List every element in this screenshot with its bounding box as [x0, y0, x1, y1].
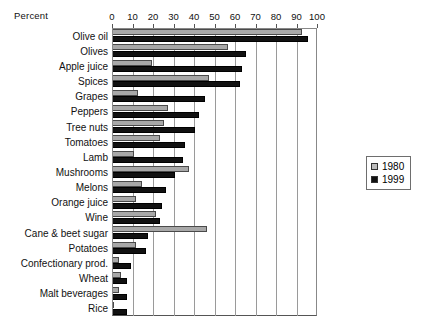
bar-1999 — [113, 51, 246, 57]
bar-row: Cane & beet sugar — [112, 225, 317, 240]
category-label: Olives — [80, 45, 108, 56]
category-label: Tree nuts — [66, 121, 108, 132]
x-tick-label: 40 — [189, 11, 200, 22]
bar-1999 — [113, 294, 127, 300]
x-tick-label: 0 — [109, 11, 114, 22]
bar-1999 — [113, 127, 195, 133]
bar-1999 — [113, 66, 242, 72]
bar-row: Wine — [112, 210, 317, 225]
x-tick-label: 10 — [127, 11, 138, 22]
bar-1980 — [113, 302, 114, 308]
bar-1980 — [113, 105, 168, 111]
category-label: Wine — [85, 212, 108, 223]
axis-title-percent: Percent — [14, 10, 48, 21]
bar-1980 — [113, 90, 138, 96]
bar-1980 — [113, 211, 156, 217]
legend-label: 1999 — [382, 173, 404, 186]
x-tick-label: 90 — [291, 11, 302, 22]
category-label: Peppers — [71, 106, 108, 117]
bar-1999 — [113, 142, 185, 148]
bar-row: Olive oil — [112, 28, 317, 43]
bar-row: Peppers — [112, 104, 317, 119]
legend-label: 1980 — [382, 160, 404, 173]
category-label: Spices — [78, 76, 108, 87]
x-tick-label: 50 — [209, 11, 220, 22]
bar-row: Tree nuts — [112, 119, 317, 134]
bar-row: Wheat — [112, 271, 317, 286]
bar-1980 — [113, 287, 119, 293]
legend-swatch-icon — [371, 176, 378, 183]
category-label: Cane & beet sugar — [25, 227, 108, 238]
bar-1980 — [113, 151, 134, 157]
bar-1980 — [113, 196, 136, 202]
plot-area: 0102030405060708090100 Olive oilOlivesAp… — [112, 28, 317, 316]
bar-row: Spices — [112, 73, 317, 88]
category-label: Rice — [88, 303, 108, 314]
chart-legend: 19801999 — [366, 156, 411, 190]
bar-1980 — [113, 226, 207, 232]
bar-1999 — [113, 218, 160, 224]
x-tick-label: 100 — [309, 11, 325, 22]
bar-1980 — [113, 272, 121, 278]
x-tick-label: 20 — [148, 11, 159, 22]
bar-1980 — [113, 181, 142, 187]
category-label: Apple juice — [59, 60, 108, 71]
legend-item: 1980 — [371, 160, 404, 173]
legend-item: 1999 — [371, 173, 404, 186]
bar-row: Grapes — [112, 89, 317, 104]
x-tick-label: 30 — [168, 11, 179, 22]
bar-1980 — [113, 242, 136, 248]
bar-row: Lamb — [112, 149, 317, 164]
category-label: Malt beverages — [40, 288, 108, 299]
bar-1980 — [113, 135, 160, 141]
bar-row: Tomatoes — [112, 134, 317, 149]
category-label: Potatoes — [69, 242, 108, 253]
category-label: Lamb — [83, 151, 108, 162]
bar-1999 — [113, 278, 127, 284]
bar-1999 — [113, 81, 240, 87]
bar-1980 — [113, 120, 164, 126]
bar-1999 — [113, 187, 166, 193]
x-tick-label: 80 — [271, 11, 282, 22]
category-label: Olive oil — [72, 30, 108, 41]
bar-1999 — [113, 263, 131, 269]
bar-1980 — [113, 29, 302, 35]
bar-1980 — [113, 60, 152, 66]
category-label: Grapes — [75, 91, 108, 102]
bar-1999 — [113, 157, 183, 163]
bar-1999 — [113, 112, 199, 118]
bar-1999 — [113, 309, 127, 315]
bar-row: Malt beverages — [112, 286, 317, 301]
bar-row: Orange juice — [112, 195, 317, 210]
bar-row: Confectionary prod. — [112, 255, 317, 270]
bar-1999 — [113, 233, 148, 239]
x-tick-label: 70 — [250, 11, 261, 22]
bar-1999 — [113, 203, 162, 209]
category-label: Tomatoes — [65, 136, 108, 147]
bar-row: Apple juice — [112, 58, 317, 73]
bar-row: Olives — [112, 43, 317, 58]
bar-row: Melons — [112, 180, 317, 195]
x-tick — [317, 24, 318, 28]
bar-row: Rice — [112, 301, 317, 316]
bar-1980 — [113, 44, 228, 50]
x-tick-label: 60 — [230, 11, 241, 22]
bar-1999 — [113, 96, 205, 102]
bar-1999 — [113, 248, 146, 254]
bar-1980 — [113, 75, 209, 81]
bar-1980 — [113, 257, 119, 263]
category-label: Melons — [76, 182, 108, 193]
category-label: Confectionary prod. — [21, 257, 108, 268]
bar-1999 — [113, 172, 175, 178]
category-label: Orange juice — [51, 197, 108, 208]
category-label: Mushrooms — [56, 166, 108, 177]
bar-1980 — [113, 166, 189, 172]
bar-1999 — [113, 36, 308, 42]
bar-chart: Percent 0102030405060708090100 Olive oil… — [0, 0, 434, 333]
bar-row: Mushrooms — [112, 164, 317, 179]
bar-row: Potatoes — [112, 240, 317, 255]
category-label: Wheat — [79, 273, 108, 284]
legend-swatch-icon — [371, 163, 378, 170]
